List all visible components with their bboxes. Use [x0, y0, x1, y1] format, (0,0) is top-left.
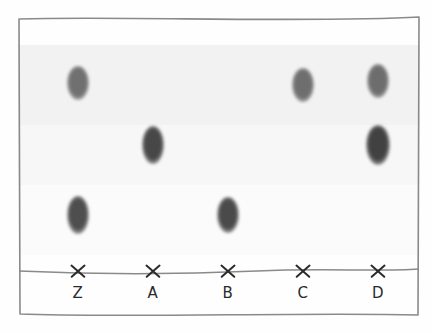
origin-x-mark-a [143, 261, 163, 281]
tlc-figure: ZABCD [0, 0, 432, 334]
origin-x-mark-d [368, 261, 388, 281]
origin-x-mark-z [68, 261, 88, 281]
lane-label-b: B [223, 284, 234, 302]
lane-label-c: C [298, 284, 309, 302]
lane-label-z: Z [73, 284, 84, 302]
lane-label-a: A [148, 284, 159, 302]
origin-x-mark-b [218, 261, 238, 281]
lane-label-d: D [372, 284, 384, 302]
origin-x-mark-c [293, 261, 313, 281]
tlc-plate: ZABCD [17, 15, 421, 319]
